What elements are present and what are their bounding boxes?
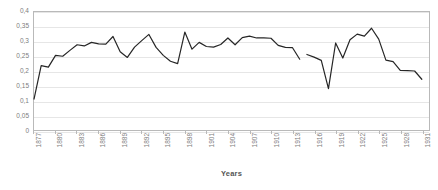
x-tick-mark — [98, 131, 99, 134]
x-tick-label: 1883 — [79, 133, 86, 147]
y-tick-label: 0,25 — [0, 53, 29, 60]
x-tick-mark — [141, 131, 142, 134]
x-tick-mark — [33, 131, 34, 134]
x-tick-label: 1916 — [317, 133, 324, 147]
x-tick-mark — [358, 131, 359, 134]
x-tick-mark — [336, 131, 337, 134]
x-tick-mark — [423, 131, 424, 134]
x-tick-mark — [293, 131, 294, 134]
x-tick-label: 1907 — [252, 133, 259, 147]
data-line — [34, 32, 300, 99]
data-line-svg — [34, 12, 429, 130]
y-tick-label: 0,3 — [0, 38, 29, 45]
x-tick-label: 1925 — [382, 133, 389, 147]
y-tick-label: 0,4 — [0, 8, 29, 15]
y-tick-label: 0,05 — [0, 113, 29, 120]
x-tick-label: 1895 — [165, 133, 172, 147]
x-tick-label: 1913 — [295, 133, 302, 147]
x-tick-mark — [401, 131, 402, 134]
y-tick-label: 0,2 — [0, 68, 29, 75]
x-tick-label: 1910 — [274, 133, 281, 147]
x-tick-label: 1880 — [57, 133, 64, 147]
y-tick-label: 0,35 — [0, 23, 29, 30]
x-tick-label: 1931 — [425, 133, 432, 147]
y-tick-label: 0,15 — [0, 83, 29, 90]
x-tick-mark — [206, 131, 207, 134]
x-tick-mark — [55, 131, 56, 134]
x-tick-mark — [76, 131, 77, 134]
x-tick-mark — [271, 131, 272, 134]
x-axis-title: Years — [33, 169, 430, 178]
x-tick-label: 1928 — [404, 133, 411, 147]
y-tick-label: 0 — [0, 128, 29, 135]
y-axis: 00,050,10,150,20,250,30,350,4 — [0, 11, 29, 131]
line-chart-figure: 00,050,10,150,20,250,30,350,4 1877188018… — [0, 0, 438, 190]
x-tick-label: 1877 — [36, 133, 43, 147]
x-tick-mark — [120, 131, 121, 134]
x-tick-label: 1904 — [230, 133, 237, 147]
x-tick-label: 1892 — [144, 133, 151, 147]
x-tick-label: 1889 — [122, 133, 129, 147]
x-tick-mark — [315, 131, 316, 134]
x-tick-mark — [163, 131, 164, 134]
x-tick-label: 1898 — [187, 133, 194, 147]
x-tick-mark — [228, 131, 229, 134]
x-tick-label: 1919 — [339, 133, 346, 147]
x-tick-mark — [250, 131, 251, 134]
x-tick-label: 1886 — [100, 133, 107, 147]
x-tick-label: 1901 — [209, 133, 216, 147]
data-line — [307, 28, 422, 88]
plot-area — [33, 11, 430, 131]
x-axis: 1877188018831886188918921895189819011904… — [33, 133, 430, 163]
x-tick-mark — [185, 131, 186, 134]
x-tick-label: 1922 — [360, 133, 367, 147]
x-tick-mark — [379, 131, 380, 134]
y-tick-label: 0,1 — [0, 98, 29, 105]
